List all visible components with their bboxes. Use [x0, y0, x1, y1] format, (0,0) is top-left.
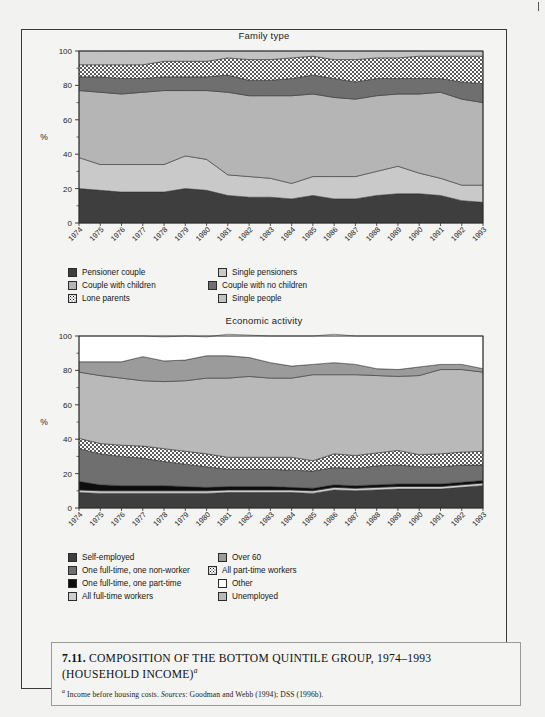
x-tick-label: 1978 — [151, 225, 169, 243]
legend-label: Couple with no children — [222, 281, 307, 290]
legend-label: Unemployed — [232, 592, 278, 601]
legend-item[interactable]: All part-time workers — [208, 564, 358, 577]
legend-item[interactable]: Single people — [218, 292, 358, 305]
legend-label: One full-time, one non-worker — [82, 566, 190, 575]
chart-2-plot: 020406080100%197419751976197719781979198… — [22, 326, 506, 551]
x-tick-label: 1981 — [215, 225, 233, 243]
x-tick-label: 1988 — [364, 510, 382, 528]
x-tick-label: 1975 — [88, 225, 106, 243]
x-tick-label: 1993 — [470, 510, 488, 528]
caption-superscript: a — [194, 666, 198, 675]
legend-swatch — [218, 592, 227, 601]
legend-swatch — [218, 553, 227, 562]
chart-1-plot: 020406080100%197419751976197719781979198… — [22, 41, 506, 266]
x-tick-label: 1987 — [343, 510, 361, 528]
x-tick-label: 1985 — [300, 510, 318, 528]
chart-1-legend: Pensioner coupleSingle pensionersCouple … — [22, 266, 506, 305]
legend-swatch — [68, 553, 77, 562]
x-tick-label: 1981 — [215, 510, 233, 528]
y-axis-label: % — [40, 132, 48, 142]
x-tick-label: 1988 — [364, 225, 382, 243]
x-tick-label: 1992 — [449, 225, 467, 243]
chart-economic-activity: Economic activity 020406080100%197419751… — [22, 315, 506, 603]
chart-2-title: Economic activity — [22, 315, 506, 326]
caption-footnote: a Income before housing costs. Sources: … — [62, 688, 510, 699]
x-tick-label: 1985 — [300, 225, 318, 243]
y-tick-label: 40 — [63, 435, 72, 444]
x-tick-label: 1983 — [258, 510, 276, 528]
legend-item[interactable]: Couple with no children — [208, 279, 358, 292]
x-tick-label: 1976 — [109, 510, 127, 528]
y-tick-label: 0 — [68, 504, 73, 513]
x-tick-label: 1976 — [109, 225, 127, 243]
x-tick-label: 1982 — [236, 510, 254, 528]
x-tick-label: 1977 — [130, 510, 148, 528]
legend-swatch — [208, 566, 217, 575]
figure-page: Family type 020406080100%197419751976197… — [21, 29, 507, 689]
legend-item[interactable]: One full-time, one part-time — [68, 577, 218, 590]
x-tick-label: 1990 — [406, 225, 424, 243]
x-tick-label: 1989 — [385, 225, 403, 243]
legend-item[interactable]: Unemployed — [218, 590, 368, 603]
legend-item[interactable]: Over 60 — [218, 551, 368, 564]
figure-caption: 7.11. COMPOSITION OF THE BOTTOM QUINTILE… — [51, 642, 521, 706]
caption-number: 7.11. — [62, 652, 86, 665]
legend-item[interactable]: Self-employed — [68, 551, 218, 564]
legend-item[interactable]: Pensioner couple — [68, 266, 218, 279]
x-tick-label: 1977 — [130, 225, 148, 243]
caption-title-line: 7.11. COMPOSITION OF THE BOTTOM QUINTILE… — [62, 651, 510, 683]
y-tick-label: 80 — [63, 81, 72, 90]
legend-swatch — [68, 268, 77, 277]
y-tick-label: 60 — [63, 401, 72, 410]
chart-1-title: Family type — [22, 30, 506, 41]
x-tick-label: 1980 — [194, 225, 212, 243]
x-tick-label: 1975 — [88, 510, 106, 528]
y-tick-label: 100 — [59, 332, 73, 341]
legend-label: Self-employed — [82, 553, 134, 562]
x-tick-label: 1990 — [406, 510, 424, 528]
legend-label: Lone parents — [82, 294, 130, 303]
x-tick-label: 1978 — [151, 510, 169, 528]
footnote-marker: a — [62, 688, 65, 694]
x-tick-label: 1991 — [428, 225, 446, 243]
y-tick-label: 60 — [63, 116, 72, 125]
x-tick-label: 1989 — [385, 510, 403, 528]
x-tick-label: 1993 — [470, 225, 488, 243]
x-tick-label: 1986 — [321, 510, 339, 528]
legend-label: All part-time workers — [222, 566, 297, 575]
legend-swatch — [68, 294, 77, 303]
legend-item[interactable]: One full-time, one non-worker — [68, 564, 208, 577]
y-tick-label: 20 — [63, 470, 72, 479]
x-tick-label: 1984 — [279, 510, 297, 528]
x-tick-label: 1987 — [343, 225, 361, 243]
legend-swatch — [68, 579, 77, 588]
y-tick-label: 40 — [63, 150, 72, 159]
legend-item[interactable]: Couple with children — [68, 279, 208, 292]
x-tick-label: 1980 — [194, 510, 212, 528]
legend-label: Couple with children — [82, 281, 156, 290]
footnote-text: Income before housing costs. — [67, 689, 159, 698]
legend-item[interactable]: Single pensioners — [218, 266, 368, 279]
legend-item[interactable]: Lone parents — [68, 292, 218, 305]
y-tick-label: 80 — [63, 366, 72, 375]
legend-swatch — [68, 566, 77, 575]
chart-2-legend: Self-employedOver 60One full-time, one n… — [22, 551, 506, 603]
y-tick-label: 0 — [68, 219, 73, 228]
y-tick-label: 20 — [63, 185, 72, 194]
y-axis-label: % — [40, 417, 48, 427]
legend-item[interactable]: All full-time workers — [68, 590, 218, 603]
legend-item[interactable]: Other — [218, 577, 358, 590]
y-tick-label: 100 — [59, 47, 73, 56]
legend-label: Over 60 — [232, 553, 261, 562]
page-corner-mark — [532, 2, 539, 11]
legend-swatch — [68, 592, 77, 601]
legend-label: All full-time workers — [82, 592, 153, 601]
legend-label: Single pensioners — [232, 268, 297, 277]
legend-label: Other — [232, 579, 252, 588]
legend-swatch — [218, 268, 227, 277]
x-tick-label: 1986 — [321, 225, 339, 243]
legend-label: Pensioner couple — [82, 268, 145, 277]
footnote-sources-label: Sources — [161, 689, 185, 698]
legend-swatch — [68, 281, 77, 290]
legend-swatch — [208, 281, 217, 290]
